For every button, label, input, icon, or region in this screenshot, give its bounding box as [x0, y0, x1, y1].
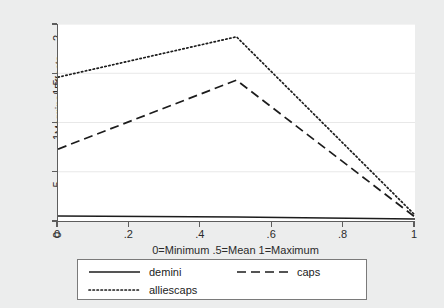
- plot-area: [57, 24, 415, 222]
- series-line-alliescaps: [58, 37, 415, 215]
- legend-label: caps: [297, 266, 320, 278]
- plot-lines: [58, 24, 415, 221]
- legend-label: alliescaps: [149, 284, 197, 296]
- chart-legend: deminicapsalliescaps: [77, 259, 367, 300]
- x-tick-label: .2: [108, 228, 148, 240]
- x-tick-label: .4: [180, 228, 220, 240]
- x-axis-title: 0=Minimum .5=Mean 1=Maximum: [57, 244, 414, 256]
- dotted-line-key: [88, 284, 141, 296]
- x-tick-label: 1: [394, 228, 434, 240]
- x-tick-label: .8: [323, 228, 363, 240]
- chart-screenshot: Marginal Effects 0.511.52 0.2.4.6.81 0=M…: [0, 0, 444, 308]
- series-line-demini: [58, 216, 415, 219]
- x-tick-mark: [199, 222, 200, 227]
- x-tick-mark: [413, 222, 414, 227]
- x-tick-label: .6: [251, 228, 291, 240]
- x-tick-mark: [128, 222, 129, 227]
- solid-line-key: [88, 266, 141, 278]
- x-tick-mark: [56, 222, 57, 227]
- x-tick-mark: [342, 222, 343, 227]
- graph-region: Marginal Effects 0.511.52 0.2.4.6.81 0=M…: [5, 5, 439, 244]
- x-tick-label: 0: [37, 228, 77, 240]
- legend-label: demini: [149, 266, 181, 278]
- legend-entry-caps[interactable]: caps: [236, 263, 320, 281]
- series-line-caps: [58, 80, 415, 217]
- legend-entry-demini[interactable]: demini: [88, 263, 181, 281]
- legend-entry-alliescaps[interactable]: alliescaps: [88, 281, 197, 299]
- dashed-line-key: [236, 266, 289, 278]
- x-tick-mark: [271, 222, 272, 227]
